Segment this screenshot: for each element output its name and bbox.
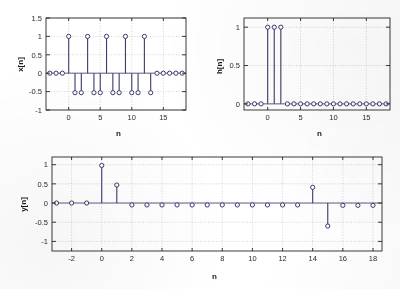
y-tick-label: -1 bbox=[41, 237, 48, 246]
axes-y: -2024681012141618-1-0.500.51 bbox=[0, 145, 400, 289]
y-tick-label: 1 bbox=[236, 23, 240, 32]
axes-h: 05101500.51 bbox=[200, 0, 400, 145]
y-tick-label: 1.5 bbox=[32, 14, 42, 23]
y-tick-label: 0 bbox=[236, 100, 240, 109]
x-tick-label: 14 bbox=[309, 254, 317, 263]
y-axis-label-h: h[n] bbox=[215, 59, 224, 74]
y-tick-label: 1 bbox=[44, 160, 48, 169]
x-tick-label: 15 bbox=[362, 113, 370, 122]
x-tick-label: 15 bbox=[159, 113, 167, 122]
x-tick-label: 6 bbox=[190, 254, 194, 263]
y-tick-label: 1 bbox=[38, 32, 42, 41]
x-tick-label: 4 bbox=[160, 254, 164, 263]
x-tick-label: 2 bbox=[130, 254, 134, 263]
x-tick-label: -2 bbox=[68, 254, 75, 263]
y-tick-label: -0.5 bbox=[29, 87, 42, 96]
y-tick-label: -0.5 bbox=[35, 218, 48, 227]
y-axis-label-x: x[n] bbox=[16, 57, 25, 72]
y-tick-label: 0.5 bbox=[230, 61, 240, 70]
x-tick-label: 10 bbox=[329, 113, 337, 122]
x-tick-label: 8 bbox=[220, 254, 224, 263]
x-tick-label: 10 bbox=[128, 113, 136, 122]
x-axis-label-x: n bbox=[116, 129, 121, 138]
plot-panel-y: -2024681012141618-1-0.500.51 y[n] n bbox=[0, 145, 400, 289]
x-tick-label: 16 bbox=[339, 254, 347, 263]
x-tick-label: 0 bbox=[67, 113, 71, 122]
y-axis-label-y: y[n] bbox=[19, 197, 28, 212]
y-tick-label: -1 bbox=[35, 106, 42, 115]
y-tick-label: 0.5 bbox=[32, 51, 42, 60]
x-axis-label-h: n bbox=[317, 129, 322, 138]
matlab-figure: 051015-1-0.500.511.5 x[n] n 05101500.51 … bbox=[0, 0, 400, 289]
x-tick-label: 10 bbox=[248, 254, 256, 263]
x-tick-label: 0 bbox=[266, 113, 270, 122]
axes-x: 051015-1-0.500.511.5 bbox=[0, 0, 200, 145]
x-tick-label: 5 bbox=[98, 113, 102, 122]
y-tick-label: 0.5 bbox=[38, 180, 48, 189]
x-axis-label-y: n bbox=[212, 272, 217, 281]
plot-panel-x: 051015-1-0.500.511.5 x[n] n bbox=[0, 0, 200, 145]
x-tick-label: 18 bbox=[369, 254, 377, 263]
plot-panel-h: 05101500.51 h[n] n bbox=[200, 0, 400, 145]
y-tick-label: 0 bbox=[44, 199, 48, 208]
x-tick-label: 0 bbox=[100, 254, 104, 263]
x-tick-label: 12 bbox=[278, 254, 286, 263]
x-tick-label: 5 bbox=[298, 113, 302, 122]
y-tick-label: 0 bbox=[38, 69, 42, 78]
